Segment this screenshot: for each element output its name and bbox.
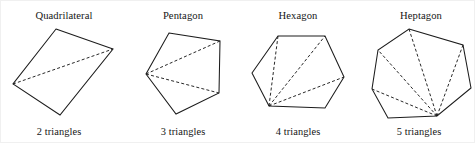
polygon-caption-hexagon: 4 triangles	[276, 126, 321, 137]
polygon-caption-pentagon: 3 triangles	[161, 126, 206, 137]
figure-canvas: Quadrilateral2 trianglesPentagon3 triang…	[1, 1, 475, 143]
polygon-title-hexagon: Hexagon	[279, 10, 319, 21]
polygon-title-quadrilateral: Quadrilateral	[35, 10, 92, 21]
polygon-panel-heptagon: Heptagon5 triangles	[372, 10, 471, 137]
polygon-diagonal-hexagon-2	[269, 36, 325, 106]
polygon-outline-hexagon	[252, 36, 344, 108]
polygon-diagonal-quadrilateral-1	[13, 49, 113, 84]
polygon-diagonal-pentagon-2	[146, 74, 219, 93]
polygon-title-heptagon: Heptagon	[400, 10, 443, 21]
polygon-caption-heptagon: 5 triangles	[397, 126, 442, 137]
polygon-outline-pentagon	[146, 33, 220, 114]
polygon-diagonal-heptagon-3	[372, 89, 437, 116]
polygon-panel-quadrilateral: Quadrilateral2 triangles	[13, 10, 113, 137]
polygon-diagonal-heptagon-1	[409, 29, 437, 116]
polygon-title-pentagon: Pentagon	[163, 10, 204, 21]
polygon-outline-quadrilateral	[13, 29, 113, 115]
polygon-outline-heptagon	[372, 29, 471, 118]
polygon-diagonal-pentagon-1	[146, 41, 220, 74]
polygon-triangulation-figure: Quadrilateral2 trianglesPentagon3 triang…	[0, 0, 475, 143]
polygon-diagonal-heptagon-4	[378, 50, 437, 116]
polygon-caption-quadrilateral: 2 triangles	[37, 126, 82, 137]
polygon-panel-hexagon: Hexagon4 triangles	[252, 10, 344, 137]
polygon-panel-pentagon: Pentagon3 triangles	[146, 10, 220, 137]
